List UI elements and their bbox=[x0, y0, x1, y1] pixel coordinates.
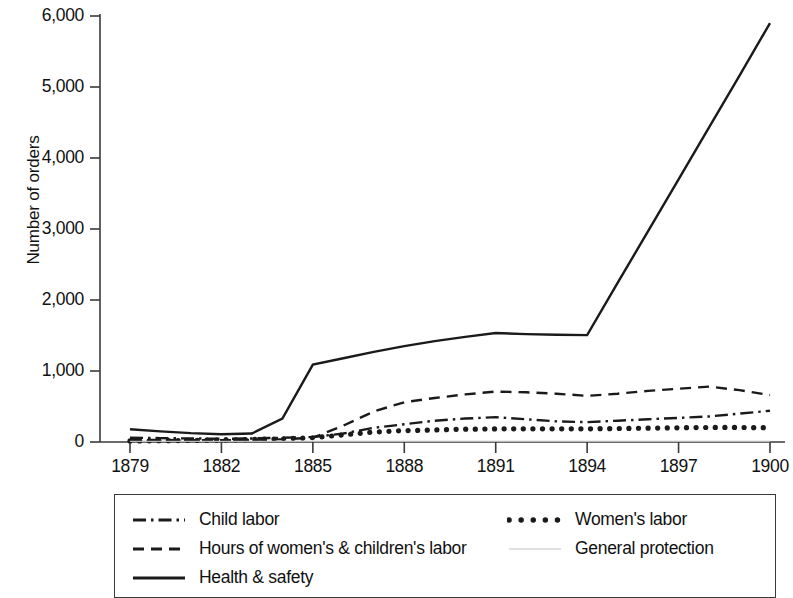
legend-item: Hours of women's & children's labor bbox=[131, 534, 467, 563]
series-line-1 bbox=[130, 387, 770, 441]
x-tick-label: 1891 bbox=[456, 456, 536, 477]
legend-item: Health & safety bbox=[131, 563, 467, 592]
legend-item: Women's labor bbox=[507, 505, 714, 534]
y-tick-label: 1,000 bbox=[0, 360, 84, 381]
legend-line-sample-icon bbox=[507, 542, 563, 556]
y-tick-label: 6,000 bbox=[0, 5, 84, 26]
legend-line-sample-icon bbox=[507, 513, 563, 527]
legend-item-label: Women's labor bbox=[575, 509, 687, 530]
legend-column-left: Child laborHours of women's & children's… bbox=[131, 505, 467, 592]
series-lines bbox=[130, 23, 770, 441]
series-line-2 bbox=[130, 23, 770, 434]
x-tick-label: 1885 bbox=[273, 456, 353, 477]
legend-item-label: Child labor bbox=[199, 509, 279, 530]
legend-column-right: Women's laborGeneral protection bbox=[507, 505, 714, 563]
legend-line-sample-icon bbox=[131, 542, 187, 556]
x-tick-label: 1900 bbox=[730, 456, 793, 477]
y-tick-label: 2,000 bbox=[0, 289, 84, 310]
legend-item-label: Health & safety bbox=[199, 567, 313, 588]
y-tick-label: 0 bbox=[0, 431, 84, 452]
y-tick-label: 4,000 bbox=[0, 147, 84, 168]
legend-item: General protection bbox=[507, 534, 714, 563]
x-tick-label: 1888 bbox=[364, 456, 444, 477]
x-tick-label: 1894 bbox=[547, 456, 627, 477]
legend-line-sample-icon bbox=[131, 513, 187, 527]
x-tick-label: 1897 bbox=[639, 456, 719, 477]
axis-lines bbox=[90, 14, 785, 453]
legend-item: Child labor bbox=[131, 505, 467, 534]
x-tick-label: 1879 bbox=[90, 456, 170, 477]
y-tick-label: 5,000 bbox=[0, 76, 84, 97]
legend-item-label: General protection bbox=[575, 538, 714, 559]
legend-line-sample-icon bbox=[131, 571, 187, 585]
legend-item-label: Hours of women's & children's labor bbox=[199, 538, 467, 559]
chart-legend: Child laborHours of women's & children's… bbox=[114, 494, 776, 598]
x-tick-label: 1882 bbox=[181, 456, 261, 477]
y-tick-label: 3,000 bbox=[0, 218, 84, 239]
